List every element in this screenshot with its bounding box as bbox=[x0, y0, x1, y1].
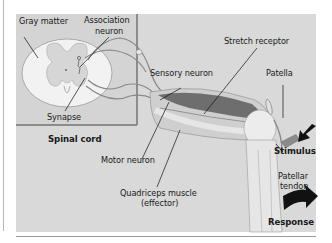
label-association-neuron-line2: neuron bbox=[95, 27, 123, 36]
label-motor-neuron: Motor neuron bbox=[101, 156, 155, 165]
label-quadriceps-line1: Quadriceps muscle bbox=[120, 189, 197, 198]
label-quadriceps-line2: (effector) bbox=[141, 199, 178, 208]
label-stretch-receptor: Stretch receptor bbox=[224, 37, 289, 46]
label-spinal-cord: Spinal cord bbox=[48, 135, 101, 144]
leg-illustration bbox=[150, 88, 300, 232]
label-gray-matter: Gray matter bbox=[19, 17, 68, 26]
label-stimulus: Stimulus bbox=[274, 147, 316, 156]
label-association-neuron-line1: Association bbox=[84, 16, 130, 25]
spinal-cord-cross-section bbox=[22, 39, 112, 107]
label-response: Response bbox=[268, 218, 314, 227]
label-patellar-tendon-line1: Patellar bbox=[278, 172, 308, 181]
stimulus-arrow-icon bbox=[298, 124, 316, 142]
label-patella: Patella bbox=[266, 69, 293, 78]
label-patellar-tendon-line2: tendon bbox=[280, 182, 308, 191]
label-sensory-neuron: Sensory neuron bbox=[150, 69, 213, 78]
label-synapse: Synapse bbox=[47, 113, 81, 122]
